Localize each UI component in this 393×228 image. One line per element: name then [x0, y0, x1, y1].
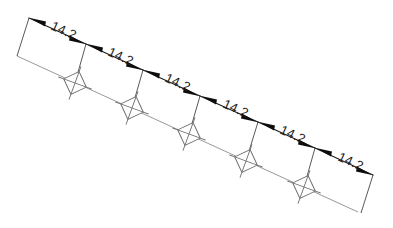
crossed-square-marker-1[interactable] — [58, 66, 91, 99]
dimension-label-3: 14.2 — [163, 70, 193, 95]
extension-line-start — [17, 18, 29, 56]
crossed-square-marker-5[interactable] — [287, 170, 320, 203]
dimension-label-2: 14.2 — [106, 44, 136, 69]
extension-lines-group — [17, 18, 373, 213]
dimension-label-1: 14.2 — [49, 18, 79, 43]
dimension-drawing-canvas: 14.2 14.2 14.2 14.2 14.2 14.2 — [0, 0, 393, 228]
crossed-square-marker-2[interactable] — [115, 91, 148, 124]
extension-line-end — [361, 175, 373, 213]
dimension-labels-group: 14.2 14.2 14.2 14.2 14.2 14.2 — [49, 18, 366, 174]
dimension-label-6: 14.2 — [336, 149, 366, 174]
arrowhead-3-left — [144, 70, 160, 79]
arrowhead-6-left — [316, 148, 332, 157]
crossed-square-marker-4[interactable] — [229, 144, 262, 177]
dimension-label-4: 14.2 — [221, 96, 251, 121]
arrowhead-4-left — [201, 96, 217, 105]
arrowhead-1-left — [30, 18, 46, 27]
dimension-label-5: 14.2 — [278, 122, 308, 147]
arrowhead-5-left — [259, 122, 275, 131]
arrowhead-2-left — [87, 44, 103, 53]
crossed-square-marker-3[interactable] — [172, 117, 205, 150]
